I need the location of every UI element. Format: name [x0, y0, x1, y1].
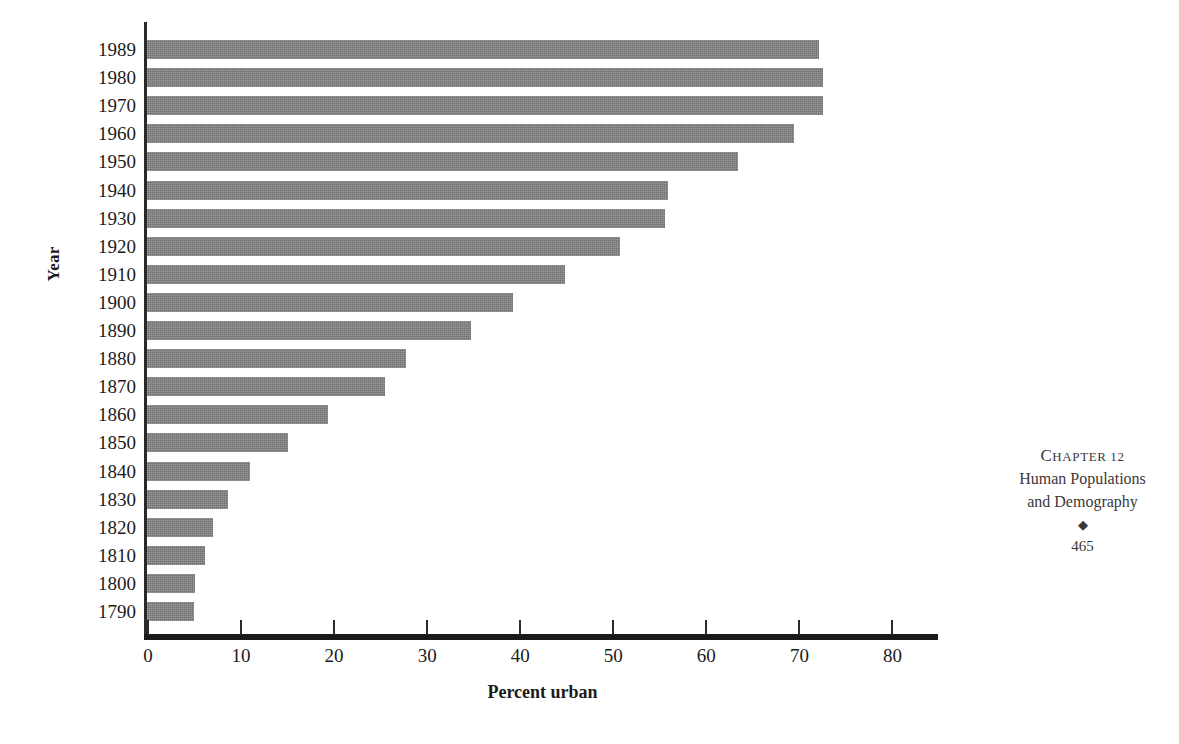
x-tick-mark: [240, 620, 242, 635]
y-axis-title: Year: [44, 204, 68, 324]
y-tick-label: 1830: [74, 490, 136, 509]
y-tick-label: 1900: [74, 293, 136, 312]
x-tick-mark: [891, 620, 893, 635]
y-tick-label: 1970: [74, 96, 136, 115]
bar-row: 1820: [147, 514, 938, 542]
x-tick-mark: [333, 620, 335, 635]
y-tick-label: 1870: [74, 377, 136, 396]
bar: [147, 518, 213, 537]
bar-row: 1890: [147, 317, 938, 345]
running-head: CHAPTER 12 Human Populations and Demogra…: [986, 444, 1179, 557]
page-number: 465: [986, 536, 1179, 557]
y-tick-label: 1910: [74, 265, 136, 284]
bar: [147, 490, 228, 509]
bar-row: 1850: [147, 429, 938, 457]
bar: [147, 293, 513, 312]
y-tick-label: 1880: [74, 349, 136, 368]
x-tick-label: 0: [118, 645, 178, 667]
x-axis-line: [144, 634, 938, 640]
bar-row: 1790: [147, 598, 938, 626]
bar: [147, 602, 194, 621]
x-tick-label: 80: [862, 645, 922, 667]
y-tick-label: 1940: [74, 181, 136, 200]
x-tick-label: 50: [583, 645, 643, 667]
bar: [147, 546, 205, 565]
x-tick-label: 30: [397, 645, 457, 667]
bar-row: 1860: [147, 401, 938, 429]
bar: [147, 574, 195, 593]
x-tick-label: 20: [304, 645, 364, 667]
bar: [147, 96, 823, 115]
bar-row: 1830: [147, 486, 938, 514]
x-tick-mark: [705, 620, 707, 635]
x-tick-label: 60: [676, 645, 736, 667]
y-tick-label: 1950: [74, 152, 136, 171]
bar: [147, 181, 668, 200]
y-tick-label: 1820: [74, 518, 136, 537]
y-tick-label: 1930: [74, 209, 136, 228]
bar-row: 1880: [147, 345, 938, 373]
y-tick-label: 1989: [74, 40, 136, 59]
x-tick-label: 10: [211, 645, 271, 667]
diamond-ornament-icon: ◆: [986, 514, 1179, 536]
bar: [147, 462, 250, 481]
bar-row: 1900: [147, 289, 938, 317]
bar-row: 1950: [147, 148, 938, 176]
bar: [147, 237, 620, 256]
bar: [147, 321, 471, 340]
bar: [147, 377, 385, 396]
y-tick-label: 1920: [74, 237, 136, 256]
x-tick-mark: [147, 620, 149, 635]
bar-row: 1989: [147, 36, 938, 64]
bar: [147, 152, 738, 171]
bar-row: 1930: [147, 205, 938, 233]
bar: [147, 265, 565, 284]
y-tick-label: 1850: [74, 433, 136, 452]
bar: [147, 433, 288, 452]
bar-row: 1970: [147, 92, 938, 120]
y-tick-label: 1960: [74, 124, 136, 143]
y-tick-label: 1800: [74, 574, 136, 593]
y-tick-label: 1860: [74, 405, 136, 424]
x-tick-mark: [519, 620, 521, 635]
bar-row: 1960: [147, 120, 938, 148]
y-tick-label: 1840: [74, 462, 136, 481]
y-tick-label: 1890: [74, 321, 136, 340]
y-tick-label: 1790: [74, 602, 136, 621]
bar-row: 1810: [147, 542, 938, 570]
bar-row: 1800: [147, 570, 938, 598]
plot-area: 1989198019701960195019401930192019101900…: [147, 22, 938, 634]
x-tick-label: 40: [490, 645, 550, 667]
bar: [147, 405, 328, 424]
chapter-label: CHAPTER 12: [986, 444, 1179, 468]
bar-row: 1940: [147, 177, 938, 205]
x-tick-mark: [612, 620, 614, 635]
bar: [147, 124, 794, 143]
bar-row: 1980: [147, 64, 938, 92]
chapter-title-line-1: Human Populations: [986, 468, 1179, 491]
x-axis-title: Percent urban: [147, 682, 938, 703]
bar: [147, 40, 819, 59]
bar-chart-figure: Year 19891980197019601950194019301920191…: [0, 0, 980, 744]
bar-row: 1910: [147, 261, 938, 289]
bar-row: 1840: [147, 458, 938, 486]
bar: [147, 68, 823, 87]
bar: [147, 349, 406, 368]
x-tick-label: 70: [769, 645, 829, 667]
x-tick-mark: [426, 620, 428, 635]
y-tick-label: 1810: [74, 546, 136, 565]
bar: [147, 209, 665, 228]
bar-row: 1870: [147, 373, 938, 401]
bar-row: 1920: [147, 233, 938, 261]
chapter-title-line-2: and Demography: [986, 491, 1179, 514]
y-tick-label: 1980: [74, 68, 136, 87]
x-tick-mark: [798, 620, 800, 635]
